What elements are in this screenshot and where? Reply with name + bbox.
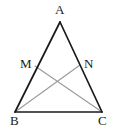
geometry-figure: A B C M N — [0, 0, 117, 130]
vertex-label-A: A — [55, 3, 64, 16]
triangle-side-AC — [60, 22, 102, 112]
cevian-segment-BN — [15, 65, 80, 112]
geometry-canvas — [0, 0, 117, 130]
cevian-group — [15, 65, 102, 112]
vertex-label-N: N — [84, 57, 93, 70]
vertex-label-B: B — [10, 114, 19, 127]
vertex-label-C: C — [98, 114, 107, 127]
vertex-label-M: M — [20, 57, 32, 70]
